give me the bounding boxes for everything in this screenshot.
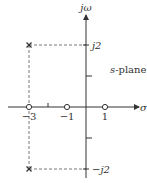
- plane-label: s-plane: [110, 64, 147, 75]
- real-tick-label: −3: [22, 111, 37, 122]
- plane-label-text: -plane: [115, 64, 146, 75]
- real-tick-label: −1: [60, 111, 75, 122]
- imaginary-tick-label: j2: [90, 40, 101, 51]
- s-plane-diagram: jω σ −3−11j2−j2 s-plane: [0, 0, 147, 183]
- real-axis-label: σ: [140, 102, 147, 113]
- zero-marker: [64, 104, 69, 109]
- imaginary-tick-label: −j2: [92, 164, 110, 175]
- imaginary-axis-label: jω: [78, 2, 91, 13]
- zero-marker: [102, 104, 107, 109]
- zero-marker: [26, 104, 31, 109]
- real-tick-label: 1: [102, 111, 108, 122]
